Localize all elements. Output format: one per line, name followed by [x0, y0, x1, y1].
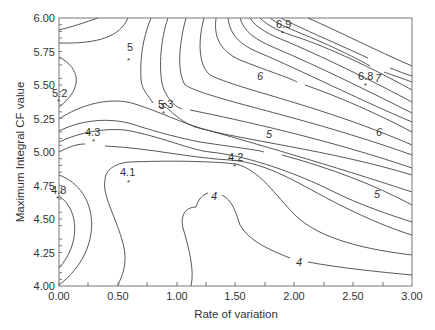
contour-label: 6	[257, 70, 264, 82]
x-tick-label: 3.00	[401, 290, 422, 302]
x-tick-label: 0.50	[107, 290, 128, 302]
point-marker: *	[127, 56, 130, 65]
y-tick-labels: 4.00 4.25 4.50 4.75 5.00 5.25 5.50 5.75 …	[34, 12, 55, 292]
point-label: 5.3	[158, 98, 173, 110]
point-marker: *	[127, 178, 130, 187]
x-axis-title: Rate of variation	[194, 308, 278, 320]
point-marker: *	[233, 162, 236, 171]
contour-label: 4	[211, 190, 217, 202]
point-marker: *	[57, 97, 60, 106]
y-tick-label: 5.75	[34, 46, 55, 58]
point-label: 4.1	[120, 166, 135, 178]
point-label: 5	[127, 41, 133, 53]
point-marker: *	[92, 137, 95, 146]
data-points: 6.9 * 5 * 5.2 * 5.3 * 6.8 * 4.3 * 4.2 * …	[51, 18, 373, 203]
point-marker: *	[281, 29, 284, 38]
point-marker: *	[162, 109, 165, 118]
y-tick-label: 4.25	[34, 247, 55, 259]
y-tick-label: 4.00	[34, 280, 55, 292]
contour-label: 4	[296, 256, 302, 268]
contour-label: 5	[374, 188, 381, 200]
y-tick-label: 4.50	[34, 213, 55, 225]
x-axis	[59, 282, 383, 286]
point-marker: *	[56, 194, 59, 203]
x-tick-label: 1.50	[224, 290, 245, 302]
x-tick-label: 2.00	[283, 290, 304, 302]
contour-chart: 0.00 0.50 1.00 1.50 2.00 2.50 3.00 4.00 …	[0, 0, 435, 330]
contour-label: 6	[376, 126, 383, 138]
x-tick-label: 2.50	[342, 290, 363, 302]
y-tick-label: 5.00	[34, 146, 55, 158]
contour-label: 5	[266, 128, 273, 140]
x-tick-label: 1.00	[166, 290, 187, 302]
contour-label: 7	[375, 72, 382, 84]
y-axis-title: Maximum Integral CF value	[14, 82, 26, 223]
y-tick-label: 6.00	[34, 12, 55, 24]
x-tick-labels: 0.00 0.50 1.00 1.50 2.00 2.50 3.00	[48, 290, 422, 302]
y-tick-label: 5.25	[34, 113, 55, 125]
point-marker: *	[364, 81, 367, 90]
